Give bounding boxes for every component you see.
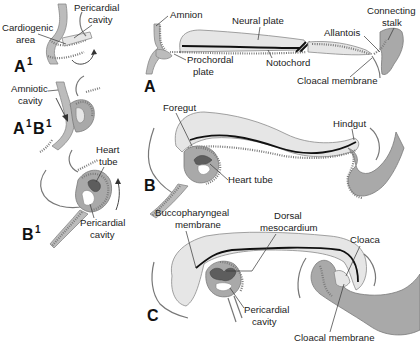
a1b1-amniotic-leader	[48, 90, 58, 91]
a1b1-panel-letter-a: A	[13, 120, 25, 137]
c-dorsal-mesocardium-label-2: mesocardium	[260, 222, 318, 233]
b1-pericardial-cavity-label-2: cavity	[90, 229, 115, 240]
c-cloacal-membrane-label: Cloacal membrane	[294, 332, 375, 343]
a1b1-drawing	[40, 76, 100, 152]
panel-b1: Heart tube Pericardial cavity B 1	[22, 144, 125, 248]
panel-c: Buccopharyngeal membrane Dorsal mesocard…	[147, 207, 420, 343]
c-buccopharyngeal-label-2: membrane	[175, 219, 221, 230]
a-amnion-leader	[156, 16, 168, 26]
a1-pericardial-cavity-label-2: cavity	[88, 14, 113, 25]
c-pericardial-cavity-label-1: Pericardial	[244, 304, 289, 315]
a1-panel-sup: 1	[27, 56, 33, 67]
b1-panel-sup: 1	[35, 224, 41, 235]
b-panel-letter: B	[144, 177, 156, 194]
a1-pericardial-cavity-label-1: Pericardial	[74, 2, 119, 13]
c-buccopharyngeal-label-1: Buccopharyngeal	[155, 207, 229, 218]
a1-cardiogenic-area-label-2: area	[16, 34, 36, 45]
c-cloaca-label: Cloaca	[350, 234, 381, 245]
c-pericardial-cavity-label-2: cavity	[252, 316, 277, 327]
b1-panel-letter: B	[22, 226, 34, 243]
a-neural-plate-label: Neural plate	[232, 15, 284, 26]
a-panel-letter: A	[144, 78, 156, 95]
a-cloacal-membrane-label: Cloacal membrane	[297, 75, 378, 86]
a1b1-panel-sup-a: 1	[26, 118, 32, 129]
panel-b: Foregut Hindgut Heart tube B	[144, 102, 404, 218]
a-prochordal-plate-label-2: plate	[193, 66, 214, 77]
a-prochordal-leader	[174, 54, 186, 60]
a1-cardiogenic-area-label-1: Cardiogenic	[2, 22, 53, 33]
b1-heart-tube-label-1: Heart	[96, 144, 120, 155]
a-prochordal-plate-label-1: Prochordal	[187, 54, 233, 65]
b-hindgut-label: Hindgut	[333, 118, 366, 129]
a1b1-amniotic-cavity-label-1: Amniotic	[11, 83, 48, 94]
b-heart-tube-label: Heart tube	[228, 174, 273, 185]
a1-panel-letter: A	[14, 58, 26, 75]
a-allantois-leader	[364, 36, 380, 52]
c-panel-letter: C	[147, 307, 159, 324]
a-connecting-stalk-label-1: Connecting	[367, 5, 416, 16]
c-dorsal-mesocardium-label-1: Dorsal	[274, 210, 302, 221]
a1b1-panel-letter-b: B	[33, 120, 45, 137]
a-connecting-stalk-label-2: stalk	[382, 17, 402, 28]
a-allantois-label: Allantois	[324, 27, 360, 38]
b-foregut-label: Foregut	[163, 102, 196, 113]
b1-heart-tube-label-2: tube	[99, 156, 118, 167]
b1-pericardial-cavity-label-1: Pericardial	[80, 217, 125, 228]
a-notochord-label: Notochord	[266, 57, 310, 68]
a-drawing	[146, 24, 403, 78]
a-amnion-label: Amnion	[170, 9, 203, 20]
c-drawing	[152, 232, 420, 335]
embryo-folding-diagram: Pericardial cavity Cardiogenic area A 1 …	[0, 0, 420, 344]
panel-a1: Pericardial cavity Cardiogenic area A 1	[2, 2, 119, 75]
panel-a: Amnion Neural plate Connecting stalk All…	[144, 5, 416, 95]
a1b1-amniotic-cavity-label-2: cavity	[18, 95, 43, 106]
a1b1-panel-sup-b: 1	[46, 118, 52, 129]
panel-a1b1: Amniotic cavity A 1 B 1	[11, 76, 100, 152]
